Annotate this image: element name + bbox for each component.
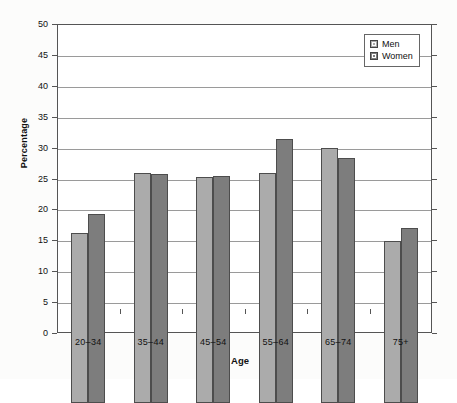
y-axis-tick-mark — [52, 240, 57, 241]
bar-men — [259, 173, 276, 403]
legend-item-men: Men — [370, 38, 413, 50]
y-axis-tick-mark — [432, 240, 437, 241]
y-axis-tick-mark — [52, 179, 57, 180]
legend-label-women: Women — [382, 51, 413, 61]
bar-women — [88, 214, 105, 403]
y-axis-tick-mark — [432, 55, 437, 56]
x-axis-tick-mark — [370, 309, 371, 314]
bar-women — [151, 174, 168, 403]
x-axis-tick-mark — [182, 309, 183, 314]
x-axis-title: Age — [55, 355, 425, 366]
gridline — [58, 180, 431, 181]
x-axis-tick-mark — [120, 309, 121, 314]
legend-label-men: Men — [382, 39, 400, 49]
y-axis-tick-mark — [52, 24, 57, 25]
y-axis-tick-label: 10 — [8, 266, 48, 276]
x-axis-tick-label: 45–54 — [183, 337, 243, 347]
gridline — [58, 118, 431, 119]
legend-swatch-men-icon — [370, 40, 378, 48]
y-axis-tick-mark — [432, 148, 437, 149]
y-axis-tick-mark — [52, 209, 57, 210]
x-axis-tick-label: 20–34 — [58, 337, 118, 347]
y-axis-tick-mark — [52, 271, 57, 272]
bar-women — [338, 158, 355, 403]
y-axis-tick-mark — [432, 117, 437, 118]
chart-legend: Men Women — [364, 34, 420, 67]
legend-item-women: Women — [370, 50, 413, 62]
gridline — [58, 87, 431, 88]
x-axis-tick-label: 65–74 — [308, 337, 368, 347]
y-axis-tick-mark — [432, 209, 437, 210]
y-axis-tick-label: 35 — [8, 112, 48, 122]
y-axis-tick-mark — [432, 302, 437, 303]
bar-men — [134, 173, 151, 403]
y-axis-tick-mark — [432, 24, 437, 25]
y-axis-tick-mark — [52, 302, 57, 303]
x-axis-tick-label: 75+ — [371, 337, 431, 347]
bar-women — [401, 228, 418, 403]
y-axis-tick-mark — [52, 86, 57, 87]
gridline — [58, 210, 431, 211]
y-axis-tick-mark — [52, 117, 57, 118]
y-axis-tick-label: 20 — [8, 204, 48, 214]
legend-swatch-women-icon — [370, 52, 378, 60]
x-axis-tick-label: 35–44 — [121, 337, 181, 347]
y-axis-tick-mark — [52, 55, 57, 56]
y-axis-tick-label: 30 — [8, 143, 48, 153]
gridline — [58, 272, 431, 273]
bar-men — [71, 233, 88, 403]
y-axis-tick-mark — [432, 271, 437, 272]
y-axis-tick-label: 15 — [8, 235, 48, 245]
gridline — [58, 241, 431, 242]
gridline — [58, 149, 431, 150]
x-axis-tick-label: 55–64 — [246, 337, 306, 347]
y-axis-tick-mark — [432, 86, 437, 87]
bar-women — [213, 176, 230, 403]
y-axis-tick-label: 40 — [8, 81, 48, 91]
y-axis-tick-label: 50 — [8, 19, 48, 29]
plot-area — [57, 24, 432, 333]
gridline — [58, 303, 431, 304]
x-axis-tick-mark — [245, 309, 246, 314]
y-axis-tick-mark — [432, 179, 437, 180]
y-axis-tick-label: 5 — [8, 297, 48, 307]
y-axis-tick-label: 25 — [8, 174, 48, 184]
y-axis-tick-mark — [52, 148, 57, 149]
y-axis-tick-mark — [52, 333, 57, 334]
y-axis-tick-mark — [432, 333, 437, 334]
bar-men — [196, 177, 213, 403]
x-axis-tick-mark — [307, 309, 308, 314]
y-axis-tick-label: 45 — [8, 50, 48, 60]
y-axis-tick-label: 0 — [8, 328, 48, 338]
bar-men — [384, 241, 401, 403]
